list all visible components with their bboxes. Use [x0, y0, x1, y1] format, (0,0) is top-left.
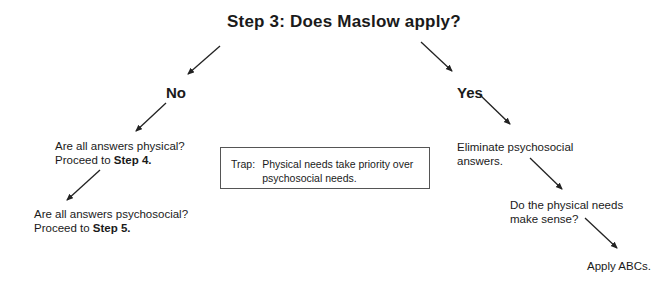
- trap-label: Trap:: [231, 157, 255, 179]
- arrow-q1-to-q2: [67, 170, 100, 200]
- diagram-title: Step 3: Does Maslow apply?: [227, 12, 461, 32]
- q2-proceed: Proceed to Step 5.: [34, 221, 188, 235]
- step-4-ref: Step 4.: [114, 154, 152, 166]
- arrow-yes-to-s1: [479, 94, 510, 124]
- arrow-title-to-yes: [421, 42, 452, 71]
- no-step-physical: Are all answers physical? Proceed to Ste…: [55, 139, 185, 167]
- q1-proceed: Proceed to Step 4.: [55, 153, 185, 167]
- no-step-psychosocial: Are all answers psychosocial? Proceed to…: [34, 207, 188, 235]
- arrow-title-to-no: [188, 46, 220, 74]
- branch-no-label: No: [166, 84, 186, 101]
- q1-question: Are all answers physical?: [55, 139, 185, 153]
- q2-question: Are all answers psychosocial?: [34, 207, 188, 221]
- step-5-ref: Step 5.: [93, 222, 131, 234]
- branch-yes-label: Yes: [457, 84, 483, 101]
- yes-step-eliminate: Eliminate psychosocial answers.: [457, 140, 573, 168]
- arrow-no-to-q1: [136, 103, 166, 131]
- trap-callout: Trap: Physical needs take priority over …: [220, 147, 430, 189]
- trap-text: Physical needs take priority over psycho…: [262, 157, 413, 179]
- yes-step-sense: Do the physical needs make sense?: [510, 198, 623, 226]
- yes-step-abcs: Apply ABCs.: [587, 259, 651, 273]
